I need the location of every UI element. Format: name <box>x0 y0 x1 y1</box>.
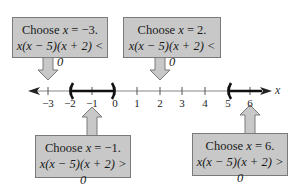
callout-test-6: Choose x = 6. x(x − 5)(x + 2) > 0 <box>192 133 288 176</box>
tick-label: 5 <box>218 97 238 109</box>
axis-label-x: x <box>275 83 280 98</box>
tick-label: 2 <box>150 97 170 109</box>
tick-label: 3 <box>172 97 192 109</box>
tick-label: −3 <box>38 97 58 109</box>
arrow-up-neg1 <box>82 107 102 136</box>
tick-label: 1 <box>127 97 147 109</box>
callout-test-2: Choose x = 2. x(x − 5)(x + 2) < 0 <box>123 17 221 58</box>
callout-line2: x(x − 5)(x + 2) < 0 <box>124 38 220 70</box>
callout-line1: Choose x = −3. <box>13 22 107 38</box>
tick-label: 0 <box>105 97 125 109</box>
callout-line1: Choose x = 2. <box>124 22 220 38</box>
tick-label: 6 <box>240 97 260 109</box>
tick-label: −2 <box>60 97 80 109</box>
tick-label: 4 <box>195 97 215 109</box>
tick-label: −1 <box>82 97 102 109</box>
callout-test-neg1: Choose x = −1. x(x − 5)(x + 2) > 0 <box>35 135 131 178</box>
callout-line2: x(x − 5)(x + 2) > 0 <box>193 154 287 186</box>
callout-line1: Choose x = −1. <box>36 140 130 156</box>
callout-line2: x(x − 5)(x + 2) < 0 <box>13 38 107 70</box>
arrow-up-6 <box>240 105 260 134</box>
callout-line1: Choose x = 6. <box>193 138 287 154</box>
callout-line2: x(x − 5)(x + 2) > 0 <box>36 156 130 186</box>
callout-test-neg3: Choose x = −3. x(x − 5)(x + 2) < 0 <box>12 17 108 58</box>
